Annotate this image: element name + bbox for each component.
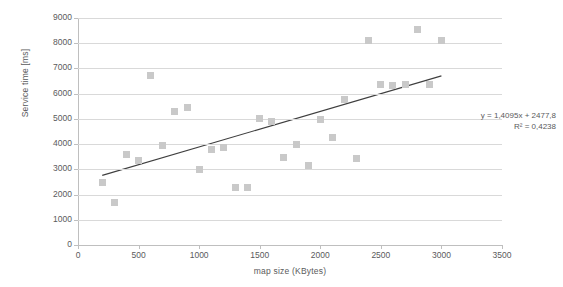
x-axis-tick-mark: [320, 245, 321, 249]
x-axis-tick-label: 500: [117, 250, 161, 260]
scatter-chart: Service time [ms] 0100020003000400050006…: [0, 0, 563, 287]
trendline-equation-annotation: y = 1,4095x + 2477,8 R² = 0,4238: [398, 110, 556, 132]
y-axis-tick-mark: [74, 195, 78, 196]
data-point: [268, 118, 275, 125]
gridline-horizontal: [78, 220, 502, 221]
y-axis-tick-label: 7000: [32, 62, 72, 72]
y-axis-tick-label: 5000: [32, 113, 72, 123]
gridline-horizontal: [78, 94, 502, 95]
data-point: [402, 81, 409, 88]
data-point: [196, 166, 203, 173]
y-axis-tick-mark: [74, 68, 78, 69]
x-axis-line: [78, 245, 503, 246]
y-axis-tick-label: 3000: [32, 163, 72, 173]
x-axis-tick-mark: [441, 245, 442, 249]
y-axis-tick-mark: [74, 119, 78, 120]
gridline-horizontal: [78, 68, 502, 69]
y-axis-tick-mark: [74, 144, 78, 145]
y-axis-tick-mark: [74, 94, 78, 95]
x-axis-tick-mark: [502, 245, 503, 249]
y-axis-tick-label: 0: [32, 239, 72, 249]
data-point: [305, 162, 312, 169]
data-point: [171, 108, 178, 115]
data-point: [220, 144, 227, 151]
data-point: [159, 142, 166, 149]
x-axis-tick-label: 3500: [480, 250, 524, 260]
x-axis-tick-mark: [381, 245, 382, 249]
x-axis-title: map size (KBytes): [78, 266, 502, 276]
y-axis-tick-label: 1000: [32, 214, 72, 224]
x-axis-tick-label: 1500: [238, 250, 282, 260]
x-axis-tick-label: 2000: [298, 250, 342, 260]
y-axis-tick-labels: 0100020003000400050006000700080009000: [28, 0, 72, 287]
data-point: [293, 141, 300, 148]
data-point: [147, 72, 154, 79]
y-axis-tick-mark: [74, 43, 78, 44]
data-point: [341, 96, 348, 103]
y-axis-tick-label: 2000: [32, 189, 72, 199]
y-axis-tick-label: 9000: [32, 12, 72, 22]
x-axis-tick-mark: [199, 245, 200, 249]
y-axis-tick-mark: [74, 18, 78, 19]
gridline-horizontal: [78, 195, 502, 196]
trendline-r-squared-text: R² = 0,4238: [398, 121, 556, 132]
data-point: [256, 115, 263, 122]
data-point: [208, 146, 215, 153]
data-point: [353, 155, 360, 162]
data-point: [123, 151, 130, 158]
x-axis-tick-label: 0: [56, 250, 100, 260]
y-axis-tick-label: 6000: [32, 88, 72, 98]
data-point: [184, 104, 191, 111]
y-axis-tick-mark: [74, 220, 78, 221]
trendline-equation-text: y = 1,4095x + 2477,8: [398, 110, 556, 121]
gridline-horizontal: [78, 169, 502, 170]
data-point: [232, 184, 239, 191]
data-point: [244, 184, 251, 191]
gridline-horizontal: [78, 144, 502, 145]
data-point: [426, 81, 433, 88]
x-axis-tick-label: 2500: [359, 250, 403, 260]
data-point: [414, 26, 421, 33]
y-axis-tick-mark: [74, 169, 78, 170]
data-point: [280, 154, 287, 161]
y-axis-tick-label: 8000: [32, 37, 72, 47]
data-point: [317, 116, 324, 123]
data-point: [135, 157, 142, 164]
x-axis-tick-mark: [78, 245, 79, 249]
x-axis-tick-mark: [260, 245, 261, 249]
data-point: [99, 179, 106, 186]
data-point: [377, 81, 384, 88]
x-axis-tick-label: 3000: [419, 250, 463, 260]
x-axis-tick-labels: 0500100015002000250030003500: [0, 250, 563, 266]
data-point: [389, 82, 396, 89]
data-point: [329, 134, 336, 141]
data-point: [365, 37, 372, 44]
data-point: [438, 37, 445, 44]
y-axis-tick-label: 4000: [32, 138, 72, 148]
data-point: [111, 199, 118, 206]
x-axis-tick-label: 1000: [177, 250, 221, 260]
gridline-horizontal: [78, 18, 502, 19]
x-axis-tick-mark: [139, 245, 140, 249]
